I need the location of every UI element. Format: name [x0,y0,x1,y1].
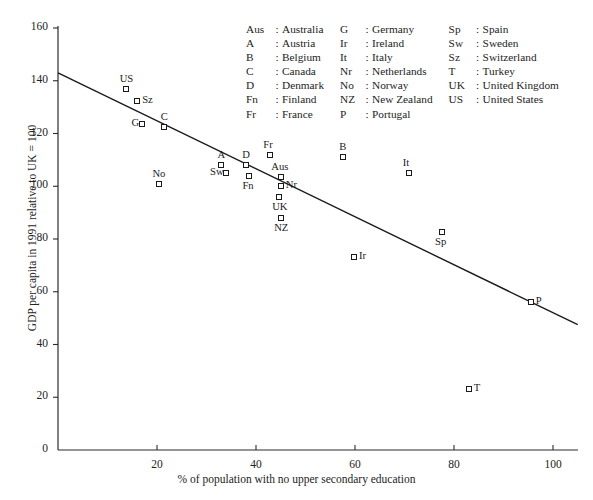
legend-country-name: Turkey [483,64,575,78]
y-axis-title: GDP per capita in 1991 relative to UK = … [26,98,38,358]
data-point-label-ir: Ir [359,250,366,261]
data-point-us[interactable] [123,86,129,92]
legend-country-name: France [282,107,340,121]
legend-abbr: Sz [449,50,473,64]
data-point-sz[interactable] [134,98,140,104]
legend-country-name: Canada [282,64,340,78]
legend-country-name [483,107,575,121]
legend-abbr: D [246,78,272,92]
legend-separator: : [362,22,372,36]
legend-country-name: Switzerland [483,50,575,64]
legend-country-name: United States [483,92,575,106]
legend-abbr: Aus [246,22,272,36]
data-point-ir[interactable] [351,254,357,260]
legend-abbr: Sp [449,22,473,36]
legend-country-name: United Kingdom [483,78,575,92]
data-point-b[interactable] [340,154,346,160]
legend-abbr: Sw [449,36,473,50]
data-point-aus[interactable] [278,174,284,180]
y-tick-label-20: 20 [14,389,48,401]
y-tick-label-0: 0 [14,442,48,454]
y-axis-ticks [53,28,58,397]
legend-country-name: Portugal [372,107,449,121]
data-point-label-fr: Fr [263,139,272,150]
legend-abbr: T [449,64,473,78]
legend-row: D:DenmarkNo:NorwayUK:United Kingdom [246,78,575,92]
legend-abbr [449,107,473,121]
legend-separator: : [272,50,282,64]
data-point-label-t: T [474,382,480,393]
legend-abbr: Fn [246,92,272,106]
data-point-label-nr: Nr [286,179,297,190]
legend-separator: : [362,50,372,64]
legend-country-name: Austria [282,36,340,50]
legend-table: Aus:AustraliaG:GermanySp:SpainA:AustriaI… [246,22,575,121]
data-point-label-sp: Sp [435,236,446,247]
legend-abbr: C [246,64,272,78]
legend-separator [473,107,483,121]
data-point-it[interactable] [406,170,412,176]
legend-separator: : [272,64,282,78]
data-point-label-uk: UK [272,201,287,212]
data-point-label-sz: Sz [142,94,153,105]
data-point-p[interactable] [528,299,534,305]
data-point-uk[interactable] [276,194,282,200]
data-point-no[interactable] [156,181,162,187]
data-point-nr[interactable] [278,183,284,189]
legend-row: Aus:AustraliaG:GermanySp:Spain [246,22,575,36]
y-tick-label-140: 140 [14,73,48,85]
data-point-label-us: US [120,73,134,84]
legend-separator: : [272,36,282,50]
y-tick-label-160: 160 [14,20,48,32]
legend-separator: : [272,92,282,106]
data-point-label-no: No [152,168,165,179]
data-point-sp[interactable] [439,229,445,235]
data-point-c[interactable] [161,124,167,130]
legend-abbr: UK [449,78,473,92]
data-point-label-fn: Fn [242,180,253,191]
legend-abbr: It [340,50,362,64]
legend-row: Fr:FranceP:Portugal [246,107,575,121]
legend-abbr: P [340,107,362,121]
legend-separator: : [362,64,372,78]
legend-separator: : [473,64,483,78]
legend-abbr: A [246,36,272,50]
legend-abbr: No [340,78,362,92]
legend-separator: : [473,78,483,92]
data-point-t[interactable] [466,386,472,392]
legend-country-name: Australia [282,22,340,36]
legend-abbr: US [449,92,473,106]
data-point-label-d: D [242,149,250,160]
data-point-sw[interactable] [223,170,229,176]
data-point-nz[interactable] [278,215,284,221]
x-tick-label-60: 60 [335,458,375,470]
legend-row: B:BelgiumIt:ItalySz:Switzerland [246,50,575,64]
data-point-fn[interactable] [246,173,252,179]
legend-abbr: Nr [340,64,362,78]
x-axis-title: % of population with no upper secondary … [0,473,593,485]
legend-country-name: Spain [483,22,575,36]
legend-country-name: Sweden [483,36,575,50]
data-point-g[interactable] [139,121,145,127]
data-point-label-c: C [161,111,168,122]
legend-separator: : [473,50,483,64]
legend-country-name: Denmark [282,78,340,92]
legend-separator: : [473,22,483,36]
data-point-label-b: B [339,141,346,152]
legend-separator: : [362,107,372,121]
x-tick-label-100: 100 [533,458,573,470]
legend-separator: : [473,36,483,50]
legend-country-name: New Zealand [372,92,449,106]
legend-abbr: Fr [246,107,272,121]
chart-container: 020406080100120140160 20406080100 GDP pe… [0,0,593,500]
legend-row: A:AustriaIr:IrelandSw:Sweden [246,36,575,50]
data-point-label-p: P [536,295,542,306]
legend-country-name: Belgium [282,50,340,64]
data-point-label-a: A [218,149,226,160]
data-point-fr[interactable] [267,152,273,158]
legend-country-name: Netherlands [372,64,449,78]
legend-abbr: NZ [340,92,362,106]
data-point-label-aus: Aus [271,161,288,172]
data-point-d[interactable] [243,162,249,168]
legend-separator: : [362,78,372,92]
